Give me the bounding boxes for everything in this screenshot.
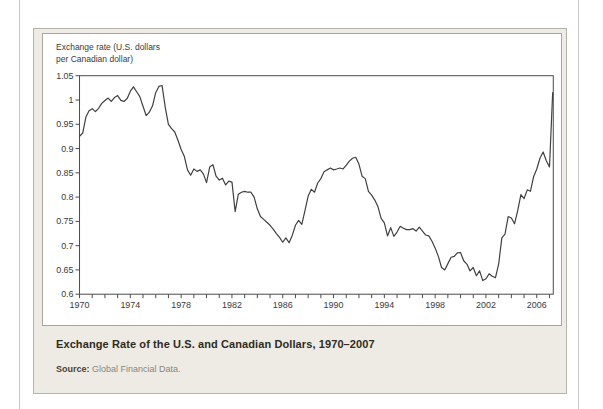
source-label: Source: xyxy=(56,364,90,374)
exchange-rate-line-chart: 0.60.650.70.750.80.850.90.9511.051970197… xyxy=(43,34,561,325)
caption-title: Exchange Rate of the U.S. and Canadian D… xyxy=(56,338,566,350)
x-tick-label: 1998 xyxy=(425,300,445,310)
y-tick-label: 0.7 xyxy=(61,241,73,251)
y-tick-label: 0.9 xyxy=(61,144,73,154)
y-axis-title: Exchange rate (U.S. dollars per Canadian… xyxy=(56,41,160,65)
y-tick-label: 0.8 xyxy=(61,192,73,202)
y-tick-label: 0.75 xyxy=(56,216,73,226)
exchange-rate-series xyxy=(80,85,553,280)
x-tick-label: 1990 xyxy=(324,300,344,310)
x-tick-label: 1970 xyxy=(70,300,90,310)
y-tick-label: 1 xyxy=(69,95,74,105)
figure-box: Exchange rate (U.S. dollars per Canadian… xyxy=(33,28,567,394)
x-tick-label: 2002 xyxy=(476,300,496,310)
y-tick-label: 0.95 xyxy=(56,119,73,129)
y-tick-label: 0.6 xyxy=(61,289,73,299)
y-axis-title-line1: Exchange rate (U.S. dollars xyxy=(56,41,160,53)
x-tick-label: 1986 xyxy=(273,300,293,310)
x-tick-label: 2006 xyxy=(527,300,547,310)
page-left-rule xyxy=(19,0,20,409)
y-axis-title-line2: per Canadian dollar) xyxy=(56,53,160,65)
x-tick-label: 1974 xyxy=(120,300,140,310)
y-tick-label: 0.65 xyxy=(56,265,73,275)
y-tick-label: 0.85 xyxy=(56,168,73,178)
figure-caption: Exchange Rate of the U.S. and Canadian D… xyxy=(34,327,566,393)
x-tick-label: 1982 xyxy=(222,300,242,310)
x-tick-label: 1994 xyxy=(374,300,394,310)
y-tick-label: 1.05 xyxy=(56,71,73,81)
x-tick-label: 1978 xyxy=(171,300,191,310)
page-right-rule xyxy=(578,0,579,409)
chart-panel: Exchange rate (U.S. dollars per Canadian… xyxy=(42,33,562,326)
source-line: Source: Global Financial Data. xyxy=(56,364,566,374)
source-text: Global Financial Data. xyxy=(90,364,181,374)
